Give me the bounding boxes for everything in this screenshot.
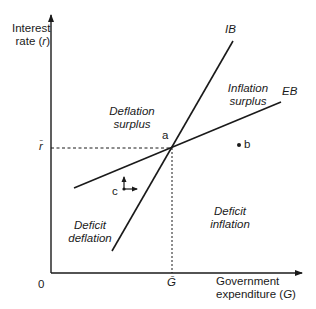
region-deficit-deflation: Deficit deflation bbox=[60, 219, 120, 245]
x-axis-label-line1: Government bbox=[216, 275, 296, 288]
ib-label: IB bbox=[225, 23, 236, 36]
region-deflation-surplus: Deflation surplus bbox=[102, 105, 162, 131]
point-c-label: c bbox=[112, 185, 118, 198]
y-axis-label-line2: rate (r) bbox=[12, 35, 50, 48]
origin-label: 0 bbox=[38, 278, 44, 291]
point-a-label: a bbox=[162, 129, 168, 142]
x-axis-label: Government expenditure (G) bbox=[216, 275, 296, 301]
point-b-label: b bbox=[244, 138, 250, 151]
y-axis-label-line1: Interest bbox=[12, 22, 50, 35]
y-axis-label: Interest rate (r) bbox=[12, 22, 50, 48]
eb-label: EB bbox=[282, 85, 297, 98]
r-bar-label: r̄ bbox=[39, 140, 43, 153]
region-deficit-inflation: Deficit inflation bbox=[200, 205, 260, 231]
point-b-dot bbox=[237, 143, 241, 147]
x-axis-label-line2: expenditure (G) bbox=[216, 288, 296, 301]
region-inflation-surplus: Inflation surplus bbox=[218, 82, 278, 108]
g-bar-label: Ḡ bbox=[167, 276, 176, 289]
